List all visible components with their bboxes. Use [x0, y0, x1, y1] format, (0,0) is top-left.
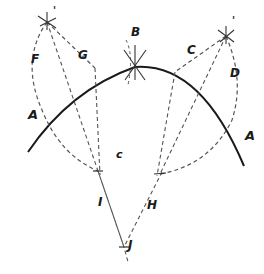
right-star-mark: [218, 26, 234, 44]
label-I: I: [98, 195, 103, 209]
label-D: D: [230, 66, 240, 80]
label-B: B: [131, 25, 140, 39]
C-line: [157, 72, 175, 176]
label-G: G: [78, 48, 88, 62]
label-C: C: [187, 43, 196, 57]
right-dashed-arc: [160, 36, 237, 174]
geometric-construction-diagram: A A B C D F G c I H J ' ': [0, 0, 264, 274]
label-c: c: [116, 148, 123, 161]
left-dashed-arc: [32, 22, 98, 171]
label-top-left-tick: ': [53, 5, 56, 16]
label-H: H: [147, 198, 157, 212]
label-A-left: A: [27, 107, 38, 122]
label-top-right-tick: ': [232, 15, 235, 26]
B-construction-cross: [124, 45, 146, 80]
main-arc-AA: [28, 67, 244, 166]
right-star-to-C-line: [175, 36, 226, 72]
label-A-right: A: [244, 128, 255, 143]
H-point-mark: [154, 173, 166, 174]
label-F: F: [31, 52, 40, 66]
label-J: J: [126, 238, 133, 252]
